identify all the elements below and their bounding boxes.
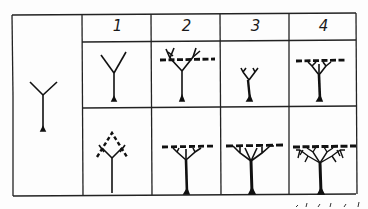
initial-fork-seedling-icon xyxy=(30,82,57,131)
column-label-2: 2 xyxy=(152,17,221,35)
column-label-3: 3 xyxy=(221,17,290,35)
r2c2-flat-crown-tree-icon xyxy=(162,146,215,194)
r1c4-flat-crown-tree-icon xyxy=(296,60,347,101)
r1c1-young-tree-icon xyxy=(101,52,126,101)
r1c2-branching-tree-icon xyxy=(160,48,215,101)
r2c1-dashed-diamond-crown-icon xyxy=(97,133,127,193)
grid-lines xyxy=(12,13,357,196)
clipped-caption-fragment xyxy=(296,202,359,207)
column-label-4: 4 xyxy=(289,17,358,35)
r2c4-dense-crown-tree-icon xyxy=(293,146,356,194)
r1c3-small-tree-icon xyxy=(241,68,258,101)
tree-architecture-diagram: 1 2 3 4 xyxy=(0,0,368,209)
r2c3-spreading-crown-tree-icon xyxy=(226,145,284,194)
column-label-1: 1 xyxy=(83,17,152,35)
